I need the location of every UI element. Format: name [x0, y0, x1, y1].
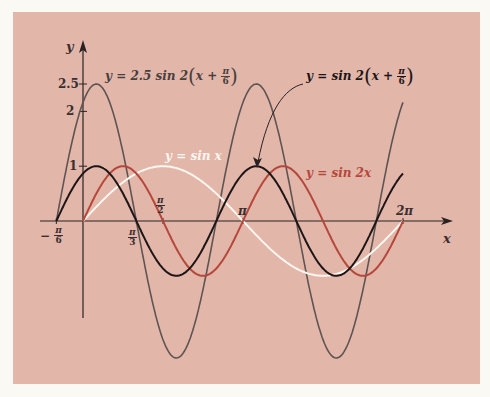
annotation-text: x +	[372, 69, 393, 83]
denominator: 3	[128, 238, 137, 247]
annotation-text: y = sin 2	[306, 69, 364, 83]
denominator: 6	[54, 236, 63, 245]
annotation-text: x +	[196, 69, 217, 83]
paren: )	[230, 64, 238, 88]
numerator: π	[397, 67, 406, 77]
denominator: 2	[156, 206, 165, 215]
y-tick-2: 2	[66, 105, 74, 117]
y-tick-1: 1	[69, 160, 77, 172]
fraction: π6	[54, 226, 63, 245]
y-axis-label: y	[66, 40, 74, 53]
denominator: 6	[221, 77, 230, 86]
plot-area	[0, 0, 490, 397]
annotation-arrow	[258, 84, 303, 162]
x-tick-neg-pi-6: − π6	[40, 226, 63, 245]
annotation-text: y = 2.5 sin 2	[105, 69, 188, 83]
x-tick-pi-3: π3	[128, 228, 137, 247]
paren: (	[188, 64, 196, 88]
paren: (	[364, 64, 372, 88]
x-tick-pi-2: π2	[156, 196, 165, 215]
fraction: π3	[128, 228, 137, 247]
numerator: π	[221, 67, 230, 77]
minus-sign: −	[40, 229, 50, 243]
annotation-red-curve: y = sin 2x	[306, 167, 371, 179]
annotation-white-curve: y = sin x	[165, 150, 222, 162]
x-axis-label: x	[443, 232, 451, 245]
x-tick-2pi: 2π	[396, 205, 413, 217]
denominator: 6	[397, 77, 406, 86]
fraction: π2	[156, 196, 165, 215]
annotation-black-curve: y = sin 2(x + π6)	[306, 66, 414, 86]
fraction: π6	[397, 67, 406, 86]
x-tick-pi: π	[238, 205, 247, 217]
paren: )	[406, 64, 414, 88]
y-tick-2-5: 2.5	[58, 78, 79, 90]
annotation-gray-curve: y = 2.5 sin 2(x + π6)	[105, 66, 238, 86]
fraction: π6	[221, 67, 230, 86]
